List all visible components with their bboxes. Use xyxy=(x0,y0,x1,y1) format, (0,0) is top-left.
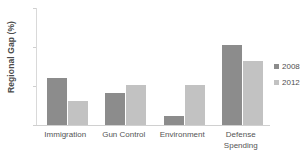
bar-2008[interactable] xyxy=(105,93,125,125)
y-axis-tick-mark xyxy=(33,8,36,9)
bar-group xyxy=(164,8,205,125)
bar-2008[interactable] xyxy=(164,116,184,125)
bar-2012[interactable] xyxy=(185,85,205,125)
bar-2008[interactable] xyxy=(222,45,242,125)
legend-label: 2012 xyxy=(282,78,300,87)
y-axis-title: Regional Gap (%) xyxy=(6,12,16,102)
y-axis-tick-mark xyxy=(33,125,36,126)
bar-chart: Regional Gap (%) 051015 ImmigrationGun C… xyxy=(0,0,308,159)
y-axis-line xyxy=(36,8,37,125)
bar-group xyxy=(105,8,146,125)
legend-label: 2008 xyxy=(282,62,300,71)
bar-group xyxy=(47,8,88,125)
legend-swatch-icon xyxy=(274,64,279,69)
legend-item[interactable]: 2008 xyxy=(274,62,300,71)
bar-2008[interactable] xyxy=(47,78,67,125)
bar-group xyxy=(222,8,263,125)
plot-area: 051015 ImmigrationGun ControlEnvironment… xyxy=(36,8,270,125)
legend-item[interactable]: 2012 xyxy=(274,78,300,87)
bar-2012[interactable] xyxy=(68,101,88,125)
bar-2012[interactable] xyxy=(126,85,146,125)
x-axis-tick-label: Defense Spending xyxy=(206,130,277,151)
y-axis-tick-mark xyxy=(33,86,36,87)
x-axis-line xyxy=(36,125,270,126)
chart-legend: 20082012 xyxy=(274,62,300,94)
y-axis-tick-mark xyxy=(33,47,36,48)
bar-2012[interactable] xyxy=(243,61,263,125)
legend-swatch-icon xyxy=(274,80,279,85)
